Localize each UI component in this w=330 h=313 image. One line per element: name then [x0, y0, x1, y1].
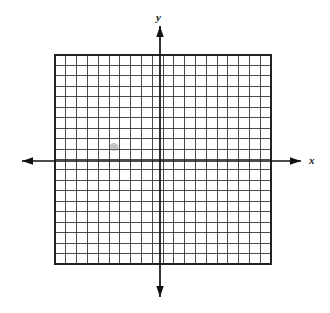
- x-axis-label: x: [309, 155, 315, 166]
- grid-horizontal-lines: [55, 55, 271, 264]
- y-axis-arrow-down: [156, 286, 163, 297]
- x-axis-arrow-left: [22, 157, 33, 164]
- coordinate-grid-figure: y x: [0, 0, 330, 313]
- coordinate-plane-graphic: [0, 0, 330, 313]
- y-axis-label: y: [156, 12, 161, 23]
- x-axis-arrow-right: [290, 157, 301, 164]
- x-axis: [22, 157, 301, 164]
- y-axis-arrow-up: [156, 26, 163, 37]
- grid-lines: [55, 55, 271, 264]
- smudge-artifact: [110, 143, 119, 151]
